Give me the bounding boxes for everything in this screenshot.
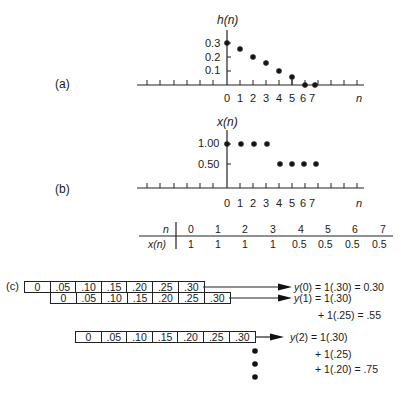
equation-y2-line2: + 1(.25) bbox=[315, 348, 351, 360]
equation-y1-line2: + 1(.25) = .55 bbox=[318, 309, 381, 321]
h-cell: .25 bbox=[179, 293, 205, 303]
h-cell: .25 bbox=[153, 282, 179, 292]
h-cell: .15 bbox=[153, 332, 179, 342]
h-cell: 0 bbox=[51, 293, 77, 303]
panel-c-label: (c) bbox=[6, 280, 19, 292]
table-x-cell: 0.5 bbox=[345, 238, 360, 250]
equation-y1-line1: y(1) = 1(.30) bbox=[294, 292, 351, 304]
equation-y2-line3: + 1(.20) = .75 bbox=[315, 363, 378, 375]
h-cell: .10 bbox=[76, 282, 102, 292]
convolution-row-1: 0 .05 .10 .15 .20 .25 .30 bbox=[50, 292, 231, 304]
equation-y2-line1: y(2) = 1(.30) bbox=[290, 331, 347, 343]
table-row-label-x: x(n) bbox=[148, 238, 166, 250]
h-cell: .10 bbox=[127, 332, 153, 342]
table-x-cell: 1 bbox=[242, 238, 248, 250]
h-cell: .10 bbox=[102, 293, 128, 303]
table-x-cell: 1 bbox=[188, 238, 194, 250]
table-x-cell: 0.5 bbox=[372, 238, 387, 250]
h-cell: .05 bbox=[51, 282, 77, 292]
table-n-cell: 2 bbox=[242, 223, 248, 235]
table-n-cell: 1 bbox=[215, 223, 221, 235]
panel-a-points bbox=[225, 41, 317, 87]
h-cell: .20 bbox=[178, 332, 204, 342]
h-cell: .25 bbox=[204, 332, 230, 342]
h-cell: .20 bbox=[127, 282, 153, 292]
h-cell: .30 bbox=[205, 293, 231, 303]
h-cell: .05 bbox=[102, 332, 128, 342]
h-cell: 0 bbox=[25, 282, 51, 292]
h-cell: .30 bbox=[179, 282, 205, 292]
table-x-cell: 0.5 bbox=[292, 238, 307, 250]
h-cell: 0 bbox=[76, 332, 102, 342]
h-cell: .30 bbox=[230, 332, 256, 342]
table-n-cell: 0 bbox=[188, 223, 194, 235]
table-x-cell: 1 bbox=[270, 238, 276, 250]
table-n-cell: 7 bbox=[380, 223, 386, 235]
convolution-row-2: 0 .05 .10 .15 .20 .25 .30 bbox=[75, 331, 256, 343]
table-n-cell: 5 bbox=[325, 223, 331, 235]
h-cell: .20 bbox=[153, 293, 179, 303]
table-n-cell: 4 bbox=[298, 223, 304, 235]
table-n-cell: 6 bbox=[352, 223, 358, 235]
panel-b-points bbox=[225, 142, 318, 166]
table-header-n: n bbox=[163, 223, 169, 235]
h-cell: .05 bbox=[77, 293, 103, 303]
table-x-cell: 0.5 bbox=[318, 238, 333, 250]
h-cell: .15 bbox=[102, 282, 128, 292]
table-x-cell: 1 bbox=[215, 238, 221, 250]
table-n-cell: 3 bbox=[270, 223, 276, 235]
h-cell: .15 bbox=[128, 293, 154, 303]
